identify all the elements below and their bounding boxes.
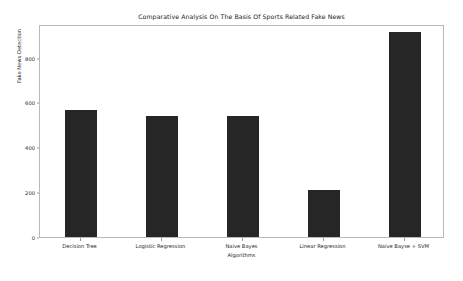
y-tick-label: 800	[25, 56, 35, 62]
chart-title: Comparative Analysis On The Basis Of Spo…	[39, 13, 444, 20]
x-tick-label: Decision Tree	[35, 243, 125, 250]
bar[interactable]	[389, 32, 421, 237]
x-tick-mark	[323, 238, 324, 241]
y-tick-label: 600	[25, 100, 35, 106]
x-tick-mark	[404, 238, 405, 241]
bar[interactable]	[65, 110, 97, 237]
x-tick-mark	[80, 238, 81, 241]
bars-layer	[40, 26, 443, 237]
y-tick-label: 0	[32, 235, 35, 241]
y-tick-label: 200	[25, 190, 35, 196]
bar[interactable]	[308, 190, 340, 237]
x-tick-label: Naive Bayse + SVM	[359, 243, 449, 250]
x-tick-label: Linear Regression	[278, 243, 368, 250]
x-tick-mark	[161, 238, 162, 241]
x-tick-mark	[242, 238, 243, 241]
y-tick-label: 400	[25, 145, 35, 151]
plot-area	[39, 25, 444, 238]
x-tick-label: Naive Bayes	[197, 243, 287, 250]
bar[interactable]	[146, 116, 178, 237]
chart-figure: Comparative Analysis On The Basis Of Spo…	[0, 0, 463, 281]
bar[interactable]	[227, 116, 259, 237]
y-axis: 0200400600800	[0, 25, 39, 238]
x-tick-label: Logistic Regression	[116, 243, 206, 250]
x-axis-label: Algorithms	[39, 252, 444, 258]
